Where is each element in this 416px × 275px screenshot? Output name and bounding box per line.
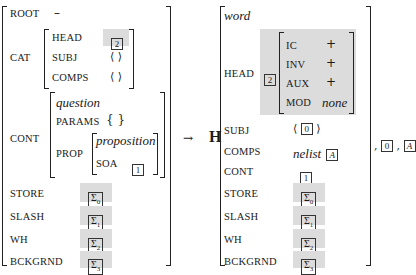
rule-arrow: → [183,131,193,145]
cat-head-tag: 2 [111,32,123,51]
rhs-bckgrnd-label: BCKGRND [224,256,277,267]
rhs-head-tag: 2 [264,68,276,87]
rhs-comps-value: nelist A [293,143,338,162]
prop-label: PROP [56,148,83,159]
aux-label: AUX [286,78,309,89]
cat-comps-label: COMPS [52,72,89,83]
slash-label: SLASH [10,211,44,222]
inv-label: INV [286,59,305,70]
rhs-slash-label: SLASH [224,211,258,222]
rhs-store-value: Σ0 [301,186,316,208]
store-label: STORE [10,188,44,199]
rhs-subj-label: SUBJ [224,125,249,136]
cat-right-bracket [129,29,134,89]
rhs-head-left-bracket [279,32,284,114]
cat-comps-value: ⟨ ⟩ [110,70,122,83]
cat-left-bracket [44,29,49,89]
rhs-store-label: STORE [224,188,258,199]
soa-label: SOA [96,158,118,169]
ic-value: + [326,37,336,51]
cont-left-bracket [50,92,55,178]
rhs-slash-value: Σ1 [301,209,316,231]
wh-label: WH [10,234,28,245]
mod-value: none [322,95,347,111]
rhs-type: word [224,8,250,24]
prop-type: proposition [96,133,155,149]
trailing-daughters: , 0 , A [374,139,416,152]
params-value: { } [106,113,125,127]
rhs-bckgrnd-value: Σ3 [301,253,316,275]
rhs-left-bracket [220,6,225,266]
cat-label: CAT [10,52,30,63]
lhs-left-bracket [2,6,7,266]
root-label: ROOT [10,8,39,19]
rhs-subj-value: ⟨ 0 ⟩ [293,122,321,135]
rhs-head-label: HEAD [224,68,254,79]
rhs-wh-label: WH [224,234,242,245]
mod-label: MOD [286,97,311,108]
cont-label: CONT [10,133,39,144]
cat-head-label: HEAD [52,32,82,43]
rhs-right-bracket [366,6,371,266]
slash-value: Σ1 [88,209,103,231]
ic-label: IC [286,40,297,51]
rhs-cont-label: CONT [224,166,253,177]
cat-subj-value: ⟨ ⟩ [110,50,122,63]
soa-tag: 1 [132,158,144,177]
root-value: – [54,6,60,20]
bckgrnd-value: Σ3 [88,253,103,275]
rhs-head-right-bracket [349,32,354,114]
rhs-comps-label: COMPS [224,146,261,157]
lhs-right-bracket [166,6,171,266]
params-label: PARAMS [56,116,99,127]
inv-value: + [326,56,336,70]
bckgrnd-label: BCKGRND [10,256,63,267]
aux-value: + [326,75,336,89]
cont-type: question [56,95,100,111]
store-value: Σ0 [88,186,103,208]
cat-subj-label: SUBJ [52,52,77,63]
cont-right-bracket [160,92,165,178]
